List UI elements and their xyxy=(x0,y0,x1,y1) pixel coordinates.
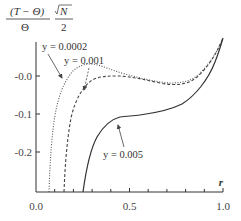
x-axis-label: r xyxy=(219,176,224,188)
ylabel-root-numerator: N xyxy=(59,5,68,17)
y-tick-label: -0.1 xyxy=(15,108,32,120)
arrow-icon xyxy=(84,68,89,90)
x-tick-label: 0.5 xyxy=(123,200,137,212)
annotation-label: y = 0.001 xyxy=(64,55,104,66)
y-tick-label: -0.0 xyxy=(15,70,33,82)
ylabel-numerator: (T − Θ) xyxy=(10,5,44,18)
x-ticks xyxy=(55,188,223,192)
y-tick-label: -0.2 xyxy=(15,146,32,158)
chart: (T − Θ) Θ N 2 -0.0 -0.1 -0.2 0.0 0.5 1.0 xyxy=(0,0,241,221)
ylabel-root-denominator: 2 xyxy=(61,21,67,33)
y-axis-label: (T − Θ) Θ N 2 xyxy=(6,5,73,33)
annotation-label: y = 0.0002 xyxy=(42,41,87,52)
x-tick-label: 1.0 xyxy=(216,200,230,212)
annotation-y-0.005: y = 0.005 xyxy=(103,125,143,160)
x-tick-labels: 0.0 0.5 1.0 xyxy=(29,200,230,212)
x-tick-label: 0.0 xyxy=(29,200,43,212)
annotation-label: y = 0.005 xyxy=(103,149,143,160)
arrow-icon xyxy=(118,125,124,147)
annotation-y-0.001: y = 0.001 xyxy=(64,55,104,90)
ylabel-denominator: Θ xyxy=(21,21,29,33)
arrow-icon xyxy=(48,54,62,78)
